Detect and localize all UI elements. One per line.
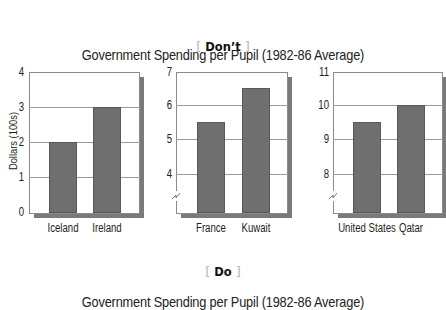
gridline bbox=[176, 105, 288, 106]
y-tick: 4 bbox=[10, 66, 24, 78]
gridline bbox=[176, 139, 288, 140]
gridline bbox=[176, 174, 288, 175]
x-category: Qatar bbox=[387, 221, 435, 235]
plot-frame bbox=[176, 72, 288, 214]
x-category: Ireland bbox=[83, 221, 131, 235]
plot-frame bbox=[333, 72, 443, 214]
axis-break-icon bbox=[171, 191, 181, 201]
y-tick: 11 bbox=[315, 66, 329, 78]
x-category: Kuwait bbox=[232, 221, 280, 235]
x-category: Iceland bbox=[39, 221, 87, 235]
chart-title: Government Spending per Pupil (1982-86 A… bbox=[27, 47, 419, 63]
y-tick: 10 bbox=[315, 99, 329, 111]
gridline bbox=[29, 107, 140, 108]
bar-qatar bbox=[397, 105, 425, 213]
y-tick: 1 bbox=[10, 171, 24, 183]
bar-france bbox=[197, 122, 225, 213]
axis-break-icon bbox=[328, 191, 338, 201]
y-tick: 3 bbox=[10, 101, 24, 113]
do-text: Do bbox=[214, 265, 231, 279]
gridline bbox=[333, 174, 443, 175]
y-tick: 0 bbox=[10, 206, 24, 218]
x-category: France bbox=[187, 221, 235, 235]
y-tick: 8 bbox=[315, 168, 329, 180]
plot-frame bbox=[29, 72, 140, 214]
y-tick: 4 bbox=[158, 168, 172, 180]
bottom-chart-title: Government Spending per Pupil (1982-86 A… bbox=[27, 294, 419, 310]
bar-iceland bbox=[49, 142, 77, 213]
gridline bbox=[333, 105, 443, 106]
y-tick: 9 bbox=[315, 133, 329, 145]
y-tick: 6 bbox=[158, 99, 172, 111]
y-tick: 7 bbox=[158, 66, 172, 78]
gridline bbox=[333, 139, 443, 140]
y-tick: 5 bbox=[158, 133, 172, 145]
do-label: [ Do ] bbox=[0, 264, 446, 279]
gridline bbox=[29, 142, 140, 143]
bar-kuwait bbox=[242, 88, 270, 213]
y-tick: 2 bbox=[10, 136, 24, 148]
bar-ireland bbox=[93, 107, 121, 213]
gridline bbox=[29, 177, 140, 178]
bar-united-states bbox=[353, 122, 381, 213]
